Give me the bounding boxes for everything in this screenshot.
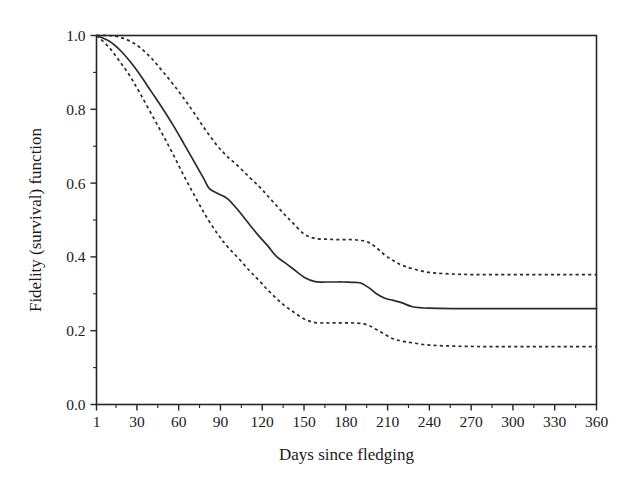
y-tick-label: 0.8 (66, 101, 86, 118)
x-tick-label: 150 (292, 413, 316, 430)
x-tick-label: 30 (129, 413, 145, 430)
x-tick-label: 210 (376, 413, 400, 430)
axes-layer (91, 36, 597, 411)
y-axis-title: Fidelity (survival) function (26, 127, 45, 312)
x-tick-label: 120 (251, 413, 275, 430)
x-tick-label: 240 (418, 413, 442, 430)
plot-frame (97, 36, 597, 405)
x-tick-label: 1 (93, 413, 101, 430)
x-tick-label: 60 (171, 413, 187, 430)
figure-container: Fidelity (survival) estimateUpper 95% co… (0, 0, 629, 482)
confidence-limit-curve: Upper 95% confidence limit (97, 35, 597, 274)
y-tick-label: 0.0 (66, 396, 86, 413)
x-tick-label: 270 (460, 413, 484, 430)
curves-layer: Fidelity (survival) estimateUpper 95% co… (97, 35, 597, 346)
y-tick-label: 0.6 (66, 175, 86, 192)
x-tick-label: 330 (543, 413, 567, 430)
x-tick-label: 90 (213, 413, 229, 430)
x-tick-label: 300 (501, 413, 525, 430)
survival-chart: Fidelity (survival) estimateUpper 95% co… (0, 0, 629, 482)
y-tick-label: 0.4 (66, 248, 86, 265)
y-tick-label: 0.2 (66, 322, 85, 339)
x-axis-title: Days since fledging (279, 445, 415, 464)
labels-layer: 13060901201501802102402703003303600.00.2… (26, 27, 608, 464)
survival-estimate-curve: Fidelity (survival) estimate (97, 36, 597, 309)
x-tick-label: 360 (585, 413, 609, 430)
y-tick-label: 1.0 (66, 27, 86, 44)
x-tick-label: 180 (334, 413, 358, 430)
